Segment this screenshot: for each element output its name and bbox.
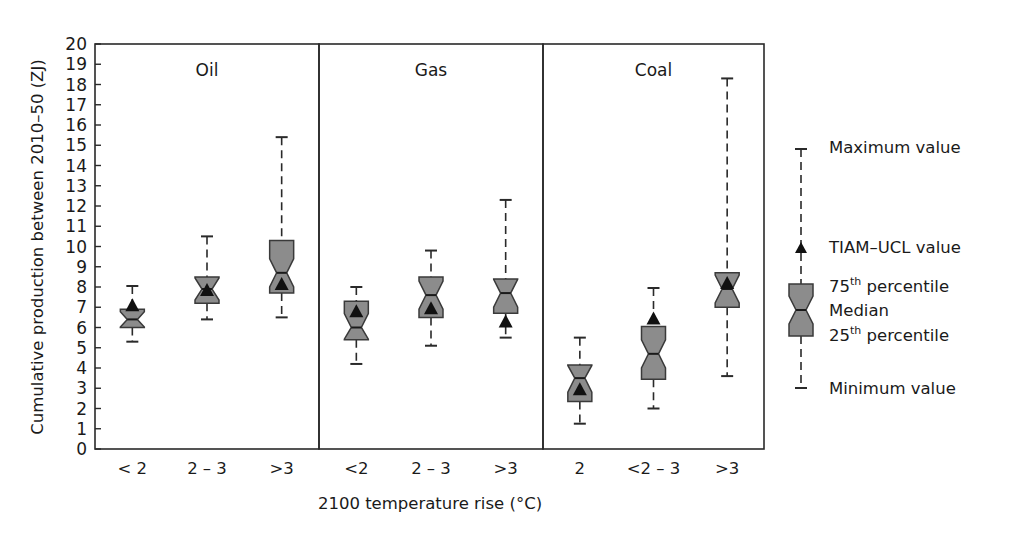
x-category-label: <2 xyxy=(344,459,368,478)
y-tick-label: 2 xyxy=(76,399,87,419)
x-category-label: < 2 xyxy=(118,459,148,478)
box-gas-3 xyxy=(494,200,518,338)
x-axis-labels: < 22 – 3>3<22 – 3>32<2 – 3>3 xyxy=(118,459,740,478)
tiam-ucl-triangle-marker xyxy=(499,314,513,327)
box-coal-3 xyxy=(715,78,739,376)
y-tick-label: 11 xyxy=(65,216,87,236)
box-gas-1 xyxy=(344,287,368,364)
x-category-label: >3 xyxy=(494,459,518,478)
box-oil-2 xyxy=(195,236,219,319)
x-axis-title: 2100 temperature rise (°C) xyxy=(318,494,542,513)
y-tick-label: 10 xyxy=(65,237,87,257)
y-tick-label: 17 xyxy=(65,95,87,115)
box-coal-2 xyxy=(642,288,666,408)
boxplot-chart: 01234567891011121314151617181920 OilGasC… xyxy=(0,0,1016,533)
x-category-label: 2 xyxy=(575,459,586,478)
legend-q1-label: 25th percentile xyxy=(829,324,949,345)
x-category-label: >3 xyxy=(715,459,739,478)
legend-median-label: Median xyxy=(829,301,889,320)
panel-frame xyxy=(319,44,543,449)
notched-box xyxy=(642,326,666,379)
tiam-ucl-triangle-marker xyxy=(125,298,139,311)
y-tick-label: 3 xyxy=(76,378,87,398)
legend-max-label: Maximum value xyxy=(829,138,961,157)
legend-boxplot-glyph xyxy=(789,149,813,388)
y-tick-label: 12 xyxy=(65,196,87,216)
y-tick-label: 5 xyxy=(76,338,87,358)
y-tick-label: 0 xyxy=(76,439,87,459)
box-gas-2 xyxy=(419,251,443,346)
y-tick-label: 14 xyxy=(65,156,87,176)
x-category-label: <2 – 3 xyxy=(627,459,681,478)
box-coal-1 xyxy=(568,338,592,424)
y-tick-label: 6 xyxy=(76,318,87,338)
panel-gas: Gas xyxy=(319,44,543,449)
tiam-ucl-triangle-marker xyxy=(647,311,661,324)
panel-title: Gas xyxy=(415,60,448,80)
legend-min-label: Minimum value xyxy=(829,379,956,398)
panel-coal: Coal xyxy=(543,44,764,449)
y-tick-label: 15 xyxy=(65,135,87,155)
y-tick-label: 4 xyxy=(76,358,87,378)
y-tick-label: 16 xyxy=(65,115,87,135)
x-category-label: >3 xyxy=(270,459,294,478)
panel-title: Oil xyxy=(196,60,219,80)
y-tick-label: 1 xyxy=(76,419,87,439)
y-tick-label: 20 xyxy=(65,34,87,54)
notched-box xyxy=(494,279,518,313)
x-category-label: 2 – 3 xyxy=(187,459,227,478)
box-oil-1 xyxy=(120,286,144,342)
panels: OilGasCoal xyxy=(95,44,764,449)
legend-q3-label: 75th percentile xyxy=(829,275,949,296)
legend-tiam-label: TIAM–UCL value xyxy=(828,238,961,257)
panel-title: Coal xyxy=(635,60,672,80)
y-tick-label: 19 xyxy=(65,54,87,74)
y-tick-label: 9 xyxy=(76,257,87,277)
legend: Maximum value TIAM–UCL value 75th percen… xyxy=(789,138,961,398)
panel-oil: Oil xyxy=(95,44,319,449)
y-tick-label: 18 xyxy=(65,75,87,95)
y-tick-label: 8 xyxy=(76,277,87,297)
legend-triangle-marker xyxy=(795,242,807,253)
box-oil-3 xyxy=(270,137,294,317)
y-tick-label: 13 xyxy=(65,176,87,196)
x-category-label: 2 – 3 xyxy=(411,459,451,478)
notched-box xyxy=(120,309,144,327)
y-tick-label: 7 xyxy=(76,297,87,317)
y-axis-title: Cumulative production between 2010–50 (Z… xyxy=(28,59,47,434)
